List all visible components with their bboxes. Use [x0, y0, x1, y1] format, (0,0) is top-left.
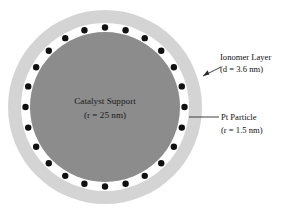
pt-particle-dot	[181, 104, 187, 110]
pt-particle-dot	[158, 48, 164, 54]
pt-particle-dot	[62, 35, 68, 41]
pt-particle-dot	[122, 27, 128, 33]
pt-particle-dot	[158, 160, 164, 166]
pt-particle-dot	[62, 173, 68, 179]
pt-particle-dot	[33, 144, 39, 150]
pt-particle-dot	[102, 183, 108, 189]
pt-particle-dot	[142, 173, 148, 179]
pt-particle-dot	[25, 83, 31, 89]
pt-particle-dot	[171, 144, 177, 150]
core-label-line1: Catalyst Support	[74, 96, 136, 106]
pt-particle-dot	[142, 35, 148, 41]
pt-particle-dot	[179, 83, 185, 89]
pt-particle-dot	[46, 48, 52, 54]
pt-particle-dot	[81, 181, 87, 187]
catalyst-support-core	[30, 32, 180, 182]
pt-particle-dot	[33, 64, 39, 70]
pt-particle-label-line1: Pt Particle	[221, 112, 257, 122]
ionomer-leader	[203, 67, 221, 76]
pt-particle-dot	[122, 181, 128, 187]
pt-particle-dot	[22, 104, 28, 110]
ionomer-leader-arrowhead	[203, 70, 209, 76]
pt-particle-dot	[46, 160, 52, 166]
pt-particle-dot	[171, 64, 177, 70]
core-label-line2: (r = 25 nm)	[84, 110, 126, 120]
diagram-canvas: Catalyst Support (r = 25 nm) Ionomer Lay…	[0, 0, 290, 213]
pt-particle-dot	[81, 27, 87, 33]
catalyst-particle-diagram: Catalyst Support (r = 25 nm) Ionomer Lay…	[0, 0, 290, 213]
pt-particle-label-line2: (r = 1.5 nm)	[221, 125, 263, 135]
ionomer-label-line2: (d = 3.6 nm)	[220, 64, 263, 74]
pt-particle-dot	[25, 124, 31, 130]
pt-particle-dot	[179, 124, 185, 130]
ionomer-label-line1: Ionomer Layer	[220, 52, 271, 62]
pt-particle-dot	[102, 24, 108, 30]
